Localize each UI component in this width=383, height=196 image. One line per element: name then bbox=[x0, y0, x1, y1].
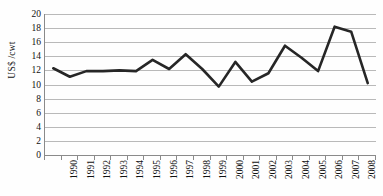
x-tick-label: 1990 bbox=[69, 160, 79, 194]
x-tick-label: 1995 bbox=[152, 160, 162, 194]
x-tick-label: 2006 bbox=[334, 160, 344, 194]
y-tick-label: 4 bbox=[24, 122, 41, 132]
x-tick-label: 1993 bbox=[119, 160, 129, 194]
x-tick-label: 1997 bbox=[185, 160, 195, 194]
y-tick-label: 6 bbox=[24, 108, 41, 118]
y-tick-label: 18 bbox=[24, 23, 41, 33]
x-tick-label: 1991 bbox=[86, 160, 96, 194]
x-tick-label: 2005 bbox=[318, 160, 328, 194]
x-tick-label: 2007 bbox=[351, 160, 361, 194]
y-axis-title: US$ /cwt bbox=[7, 20, 17, 100]
x-tick-label: 2002 bbox=[268, 160, 278, 194]
plot-area bbox=[44, 14, 376, 155]
x-tick-label: 1996 bbox=[169, 160, 179, 194]
x-tick-label: 1998 bbox=[202, 160, 212, 194]
x-tick-label: 2000 bbox=[235, 160, 245, 194]
series-line bbox=[53, 27, 367, 87]
x-tick-label: 2001 bbox=[251, 160, 261, 194]
y-tick-label: 8 bbox=[24, 94, 41, 104]
line-chart: US$ /cwt 20181614121086420 1990199119921… bbox=[0, 0, 383, 196]
y-tick-label: 16 bbox=[24, 37, 41, 47]
x-tick-label: 2008 bbox=[367, 160, 377, 194]
x-tick-label: 2003 bbox=[284, 160, 294, 194]
x-tick-label: 1994 bbox=[135, 160, 145, 194]
x-tick-label: 1999 bbox=[218, 160, 228, 194]
y-axis-tick-labels: 20181614121086420 bbox=[24, 9, 41, 155]
x-axis-tick-labels: 1990199119921993199419951996199719981999… bbox=[44, 160, 375, 196]
y-tick-label: 12 bbox=[24, 65, 41, 75]
y-tick-label: 14 bbox=[24, 51, 41, 61]
y-tick-label: 20 bbox=[24, 9, 41, 19]
y-tick-label: 10 bbox=[24, 80, 41, 90]
series-line-us-dollars-per-cwt bbox=[45, 14, 376, 155]
y-tick-label: 2 bbox=[24, 136, 41, 146]
x-tick-label: 2004 bbox=[301, 160, 311, 194]
x-tick-label: 1992 bbox=[102, 160, 112, 194]
y-tick-label: 0 bbox=[24, 150, 41, 160]
